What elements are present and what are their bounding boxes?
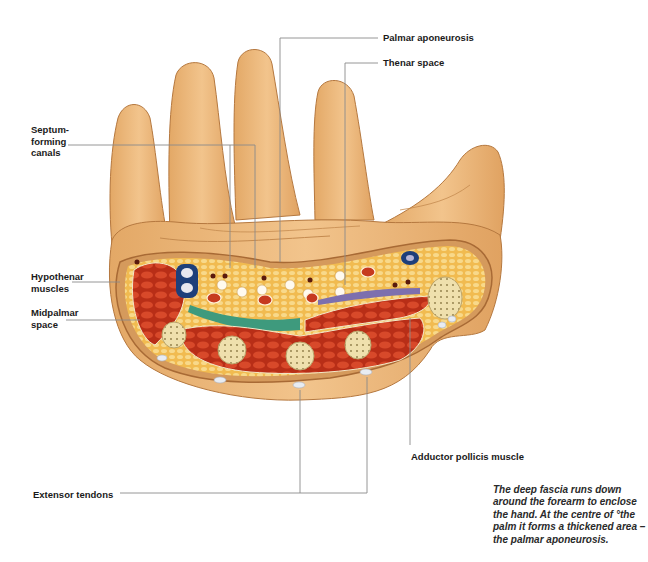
label-hypothenar-muscles: Hypothenar muscles [31, 271, 84, 294]
middle-finger [234, 49, 300, 220]
metacarpal-4 [218, 336, 246, 364]
label-thenar-space: Thenar space [383, 57, 444, 69]
metacarpal-1 [428, 277, 462, 319]
index-finger [314, 80, 374, 220]
label-midpalmar-space: Midpalmar space [31, 307, 79, 330]
label-extensor-tendons: Extensor tendons [33, 489, 113, 501]
metacarpal-2 [345, 331, 371, 359]
label-palmar-aponeurosis: Palmar aponeurosis [383, 32, 474, 44]
label-adductor-pollicis-muscle: Adductor pollicis muscle [411, 451, 524, 463]
metacarpal-5 [162, 322, 186, 348]
leader-extensor [120, 390, 300, 493]
cross-section [116, 240, 492, 388]
metacarpal-3 [286, 342, 314, 370]
ring-finger [169, 63, 235, 235]
label-septum-forming-canals: Septum- forming canals [31, 124, 69, 159]
figure-caption: The deep fascia runs down around the for… [493, 484, 648, 546]
